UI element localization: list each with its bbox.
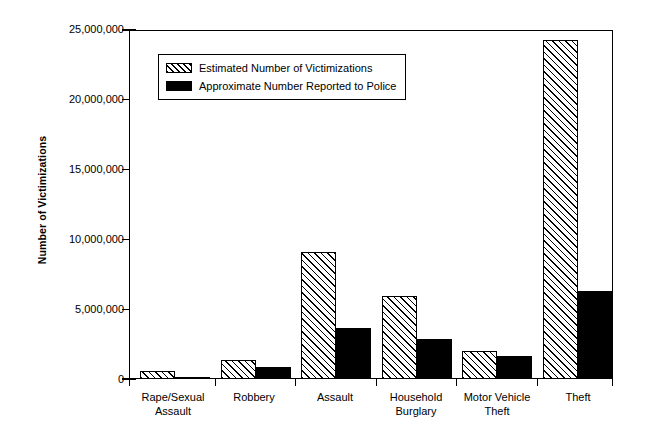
legend-label-reported: Approximate Number Reported to Police: [199, 80, 396, 92]
bar-reported-household-burglary: [417, 339, 452, 380]
x-axis-tick: [612, 378, 613, 386]
x-axis-tick: [215, 378, 216, 386]
bar-estimated-assault: [301, 252, 336, 379]
bar-reported-rape-sexual-assault: [175, 377, 210, 380]
bar-reported-motor-vehicle-theft: [497, 356, 532, 379]
legend: Estimated Number of Victimizations Appro…: [158, 54, 406, 100]
bar-estimated-robbery: [221, 360, 256, 379]
x-axis-label-robbery: Robbery: [211, 390, 297, 404]
solid-swatch-icon: [166, 81, 192, 91]
x-axis-tick: [376, 378, 377, 386]
legend-label-estimated: Estimated Number of Victimizations: [199, 62, 372, 74]
bar-estimated-rape-sexual-assault: [140, 371, 175, 379]
hatched-swatch-icon: [166, 63, 192, 73]
x-axis-tick: [129, 378, 130, 386]
bar-estimated-theft: [543, 40, 578, 379]
bar-reported-robbery: [256, 367, 291, 379]
x-axis-label-assault: Assault: [292, 390, 378, 404]
x-axis-label-motor-vehicle-theft: Motor Vehicle Theft: [451, 390, 543, 418]
victimizations-bar-chart: Number of Victimizations 25,000,000 20,0…: [0, 0, 654, 444]
bar-estimated-motor-vehicle-theft: [462, 351, 497, 380]
bar-estimated-household-burglary: [382, 296, 417, 380]
x-axis-label-rape-sexual-assault: Rape/Sexual Assault: [130, 390, 216, 418]
legend-item-estimated: Estimated Number of Victimizations: [166, 59, 398, 77]
x-axis-tick: [537, 378, 538, 386]
bar-reported-theft: [578, 291, 613, 379]
legend-item-reported: Approximate Number Reported to Police: [166, 77, 398, 95]
x-axis-label-household-burglary: Household Burglary: [373, 390, 459, 418]
x-axis-tick: [295, 378, 296, 386]
x-axis-tick: [456, 378, 457, 386]
bar-reported-assault: [336, 328, 371, 379]
x-axis-label-theft: Theft: [535, 390, 621, 404]
